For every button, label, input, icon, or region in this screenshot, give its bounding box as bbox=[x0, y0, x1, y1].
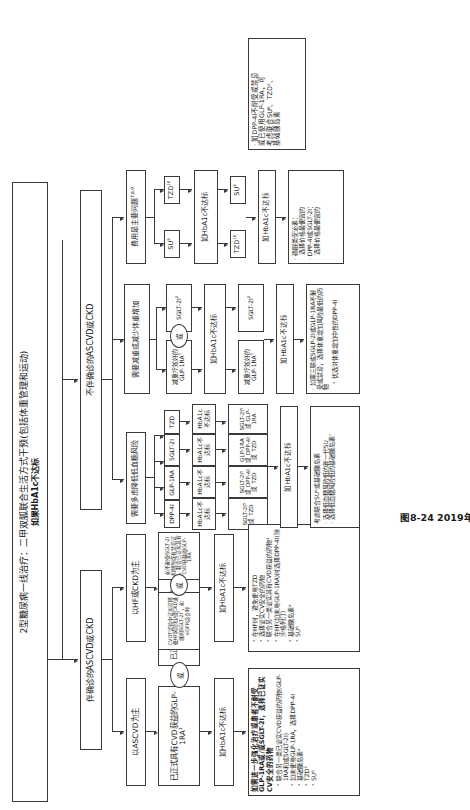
hf-followup-item-3: 在HF(如未用GLP-1RA)时选择DPP-4I(除沙格列汀) bbox=[274, 528, 287, 642]
node-cost-next-su: SU5 bbox=[230, 176, 246, 204]
node-hypo-goal-2: HbA1c不达标 bbox=[192, 434, 216, 466]
node-hf-followup: 在HF时，避免使用TZD 选择证实CV安全的药物 联合另一类证实其有CVD获益的… bbox=[248, 524, 360, 652]
weight-next-glp1-label: 减重疗效好的GLP-1RA3 bbox=[244, 343, 257, 391]
weight-sglt2-label: SGLT-2I2 bbox=[176, 296, 183, 320]
hfckd-not-goal-label: 如HbA1c不达标 bbox=[220, 563, 228, 614]
ascvd-followup-item-4: SU⁶ bbox=[311, 672, 318, 786]
node-weight-not-at-goal: 如HbA1c不达标 bbox=[204, 284, 226, 394]
hf-followup-item-4: 基础胰岛素⁴ bbox=[288, 528, 295, 642]
cost-next-su-label: SU5 bbox=[234, 184, 241, 195]
node-weight-glp1ra: 减重疗效好的GLP-1RA3 bbox=[166, 340, 192, 394]
node-need-cost: 费用是主要问题7,8,9 bbox=[126, 170, 146, 264]
or-ellipse-hf: 或 bbox=[170, 574, 188, 596]
node-hypo-drug-1: GLP-1RA bbox=[164, 466, 180, 500]
hf-alt-label: 如不耐受SGLT-2I和制剂或有禁忌证2，联合已证实其有CVD获益的GLP-1R… bbox=[165, 535, 193, 577]
hf-cvot-label: CVOT试验中证实可降低HF风险和/或CKD进展的SGLT-2I3，如eGFR适… bbox=[168, 595, 190, 647]
node-hf-alt: 如不耐受SGLT-2I和制剂或有禁忌证2，联合已证实其有CVD获益的GLP-1R… bbox=[158, 532, 200, 580]
hypo-goal-2-label: HbA1c不达标 bbox=[197, 437, 210, 463]
node-hypo-next-2: GLP-1RA 或 DPP-4I 或 TZD bbox=[228, 434, 268, 466]
cost-not-goal-2-label: 如HbA1c不达标 bbox=[263, 192, 270, 241]
need-hypo-label: 需要多虑降低低血糖风险 bbox=[132, 440, 140, 517]
node-hypo-drug-2: SGLT-2I bbox=[164, 434, 180, 466]
node-hfckd-not-at-goal: 如HbA1c不达标 bbox=[214, 534, 234, 642]
ascvd-not-goal-label: 如HbA1c不达标 bbox=[220, 707, 228, 758]
node-weight-next-glp1: 减重疗效好的GLP-1RA3 bbox=[238, 340, 264, 394]
ascvd-followup-title: 如需进一步强化治疗或患者不耐受GLP-1RA或/或SGLT-2I，选择已证实CV… bbox=[252, 672, 274, 792]
node-ascvd-not-at-goal: 如HbA1c不达标 bbox=[214, 678, 234, 786]
hypo-next-1-label: SGLT-2I⁵ 或 DPP-4I 或 TZD bbox=[239, 469, 257, 495]
weight-note-title: · 如需三联或SGLP-2I或GLP-1RA不耐受或禁忌，选择体重增加风险最低的… bbox=[310, 288, 330, 390]
ascvd-followup-item-3: TZD⁵ bbox=[304, 672, 311, 786]
su-note-line1: 考虑联合SU⁶或基础胰岛素 bbox=[314, 453, 321, 524]
cost-not-goal-label: 如HbA1c不达标 bbox=[202, 192, 210, 243]
with-ascvd-label: 伴确诊的ASCVD或CKD bbox=[87, 618, 96, 703]
ascvd-glp1-label: 已正式具有CVD获益的GLP-1RA1 bbox=[171, 689, 188, 783]
first-line-text: 2型糖尿病一线治疗：二甲双胍联合生活方式干预(包括体重管理和运动) bbox=[19, 351, 29, 634]
node-hypo-goal-1: HbA1c不达标 bbox=[192, 466, 216, 498]
weight-not-goal-label: 如HbA1c不达标 bbox=[211, 314, 219, 365]
node-weight-next-sglt2: SGLT-2I2 bbox=[238, 284, 264, 332]
node-hypo-next-1: SGLT-2I⁵ 或 DPP-4I 或 TZD bbox=[228, 466, 268, 498]
need-cost-sup: 7,8,9 bbox=[130, 187, 135, 198]
node-hypo-drug-0: DPP-4I bbox=[164, 500, 180, 528]
hypo-drug-3-label: TZD bbox=[169, 416, 176, 428]
node-su-note: 考虑联合SU⁶或基础胰岛素 · 选择低血糖风险低的新一代SU · 选择低血糖风险… bbox=[310, 406, 360, 528]
first-line-subtext: 如果HbA1c不达标 bbox=[32, 458, 41, 527]
or-label-hf: 或 bbox=[174, 582, 184, 589]
node-need-hypo-low: 需要多虑降低低血糖风险 bbox=[126, 432, 146, 524]
weight-note-list: 优选对体重增加中性的DPP-4I bbox=[332, 300, 339, 390]
or-ellipse-weight: 或 bbox=[170, 324, 188, 348]
node-without-ascvd-ckd: 不伴确诊的ASCVD或CKD bbox=[80, 190, 102, 510]
node-hf-sglt2i-detail bbox=[380, 644, 382, 648]
figure-stage: 2型糖尿病一线治疗：二甲双胍联合生活方式干预(包括体重管理和运动) 如果HbA1… bbox=[0, 0, 470, 810]
need-cost-label: 费用是主要问题7,8,9 bbox=[132, 187, 140, 247]
ascvd-pre-label: 以ASCVD为主 bbox=[132, 708, 140, 755]
without-ascvd-label: 不伴确诊的ASCVD或CKD bbox=[87, 304, 96, 397]
node-cost-not-at-goal: 如HbA1c不达标 bbox=[194, 170, 218, 264]
node-cost-tzd: TZD10 bbox=[164, 176, 180, 204]
node-hypo-not-at-goal-2: 如HbA1c不达标 bbox=[280, 406, 298, 528]
cost-note-line4: 选择价格最便宜的 bbox=[314, 207, 321, 260]
node-hf-cvot-sglt2i bbox=[152, 550, 154, 554]
hypo-drug-0-label: DPP-4I bbox=[169, 504, 176, 523]
node-hf-cvot-detail bbox=[0, 638, 2, 642]
node-hypo-drug-3: TZD bbox=[164, 410, 180, 434]
ascvd-followup-item-0: 联合另一类已证实CVD获益的药物(GLP-1RA和或SGLT-2I) bbox=[276, 672, 289, 786]
ascvd-followup-list: 联合另一类已证实CVD获益的药物(GLP-1RA和或SGLT-2I) 如未使用G… bbox=[276, 672, 319, 792]
node-ascvd-followup: 如需进一步强化治疗或患者不耐受GLP-1RA或/或SGLT-2I，选择已证实CV… bbox=[248, 668, 360, 796]
node-hypo-goal-3: HbA1c不达标 bbox=[192, 404, 216, 434]
node-cost-note: · 磺脲类促泌素： 选择价格最便宜的 · DPP-4I或SGLT-2I： 选择价… bbox=[288, 170, 344, 264]
figure-caption: 图8-24 2019年版ADA 2型糖尿病高血糖治疗流程 bbox=[400, 510, 470, 524]
need-weight-label: 需要减重或减少体重增加 bbox=[133, 301, 141, 378]
or-ellipse-ascvd: 或 bbox=[170, 662, 189, 688]
node-cost-not-at-goal-2: 如HbA1c不达标 bbox=[258, 170, 276, 264]
node-cost-su: SU5 bbox=[164, 230, 180, 258]
node-with-ascvd-ckd: 伴确诊的ASCVD或CKD bbox=[80, 570, 102, 750]
cost-next-tzd-label: TZD10 bbox=[234, 235, 241, 254]
weight-glp1-label: 减重疗效好的GLP-1RA3 bbox=[172, 343, 185, 391]
hypo-drug-1-label: GLP-1RA bbox=[169, 470, 176, 496]
flowchart-canvas: 2型糖尿病一线治疗：二甲双胍联合生活方式干预(包括体重管理和运动) 如果HbA1… bbox=[0, 0, 470, 810]
hypo-goal-1-label: HbA1c不达标 bbox=[197, 469, 210, 495]
hypo-next-3-label: SGLT-2I⁵ 或 GLP-1RA bbox=[239, 407, 257, 431]
or-label-weight: 或 bbox=[174, 333, 184, 340]
node-hf-ckd-predominant: 以HF或CKD为主 bbox=[126, 534, 146, 642]
node-weight-not-at-goal-2: 如HbA1c不达标 bbox=[276, 284, 294, 394]
hypo-not-goal-2-label: 如HbA1c不达标 bbox=[285, 442, 292, 491]
node-dpp4i-note: · 如DPP-4I不耐受或禁忌 或已使用GLP-1RA，可 考虑联合SU⁶、TZ… bbox=[248, 38, 306, 150]
hypo-next-2-label: GLP-1RA 或 DPP-4I 或 TZD bbox=[239, 437, 257, 463]
hypo-goal-0-label: HbA1c不达标 bbox=[197, 501, 210, 527]
node-hypo-goal-0: HbA1c不达标 bbox=[192, 498, 216, 530]
cost-su-label: SU5 bbox=[168, 238, 175, 249]
hf-followup-item-5: SU⁶ bbox=[295, 528, 302, 642]
node-cost-next-tzd: TZD10 bbox=[230, 230, 246, 258]
hypo-drug-2-label: SGLT-2I bbox=[169, 439, 176, 461]
node-ascvd-glp1ra: 已正式具有CVD获益的GLP-1RA1 bbox=[158, 686, 200, 786]
su-note-line3: · 选择低血糖风险低的基础胰岛素⁷ bbox=[329, 434, 336, 524]
weight-next-sglt2-label: SGLT-2I2 bbox=[248, 296, 255, 320]
node-hypo-next-3: SGLT-2I⁵ 或 GLP-1RA bbox=[228, 404, 268, 434]
node-weight-note: · 如需三联或SGLP-2I或GLP-1RA不耐受或禁忌，选择体重增加风险最低的… bbox=[306, 284, 360, 394]
node-need-weight: 需要减重或减少体重增加 bbox=[124, 284, 150, 394]
or-label-ascvd: 或 bbox=[175, 672, 185, 679]
hf-followup-list: 在HF时，避免使用TZD 选择证实CV安全的药物 联合另一类证实其有CVD获益的… bbox=[252, 528, 302, 648]
